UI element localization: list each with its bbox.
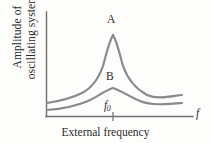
curve-a-label: A: [107, 14, 115, 26]
curve-a-path: [47, 35, 182, 103]
x-axis-symbol: f: [196, 108, 199, 120]
f0-subscript: 0: [107, 104, 111, 113]
y-axis-label: Amplitude of oscillating system: [2, 0, 48, 85]
y-axis-label-line2: oscillating system: [25, 0, 39, 79]
x-axis-label: External frequency: [0, 127, 211, 139]
resonance-curve-figure: Amplitude of oscillating system External…: [0, 0, 211, 143]
curve-b-label: B: [106, 71, 114, 83]
y-axis-label-line1: Amplitude of: [11, 6, 25, 69]
x-tick-label-f0: f0: [104, 100, 111, 113]
